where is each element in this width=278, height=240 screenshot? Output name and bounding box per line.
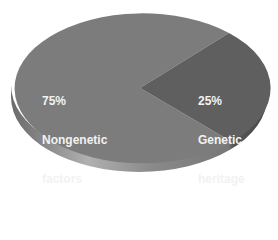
label-nongenetic-name-2: factors xyxy=(42,173,107,186)
label-nongenetic-name-1: Nongenetic xyxy=(42,134,107,147)
label-genetic-name-1: Genetic xyxy=(198,134,245,147)
label-genetic-name-2: heritage xyxy=(198,173,245,186)
label-nongenetic-percent: 75% xyxy=(42,95,107,108)
label-genetic-percent: 25% xyxy=(198,95,245,108)
label-genetic: 25% Genetic heritage xyxy=(198,69,245,189)
label-nongenetic: 75% Nongenetic factors xyxy=(42,69,107,189)
